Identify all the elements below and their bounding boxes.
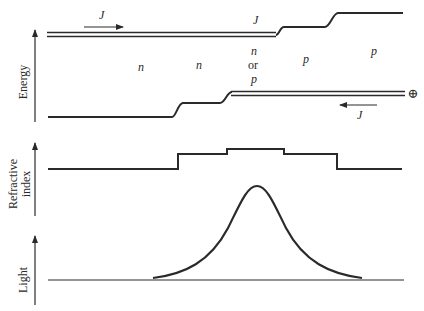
hole-symbol: ⊕ xyxy=(408,86,419,101)
region-label-1: n xyxy=(138,60,144,74)
region-label-5: p xyxy=(370,44,377,58)
refractive-index-profile xyxy=(48,149,402,169)
current-label-mid: J xyxy=(253,13,259,27)
valence-band xyxy=(48,92,405,118)
current-label-top: J xyxy=(99,8,105,22)
light-panel: Light xyxy=(16,186,404,305)
energy-panel: Energy ⊕ J J J n n n or p p p xyxy=(16,8,418,122)
region-label-4: p xyxy=(302,52,309,66)
refractive-axis-label-line2: index xyxy=(19,171,33,198)
light-intensity-curve xyxy=(153,186,362,278)
refractive-axis-label-line1: Refractive xyxy=(6,159,20,209)
energy-axis-label: Energy xyxy=(16,65,30,99)
heterojunction-diagram: Energy ⊕ J J J n n n or p p p Refractive xyxy=(0,0,424,311)
region-label-2: n xyxy=(196,58,202,72)
current-label-bottom: J xyxy=(357,108,363,122)
refractive-index-panel: Refractive index xyxy=(6,143,402,216)
region-label-3a: n xyxy=(251,44,257,58)
region-label-3c: p xyxy=(250,72,257,86)
light-axis-label: Light xyxy=(16,266,30,293)
region-label-3b: or xyxy=(248,58,258,72)
